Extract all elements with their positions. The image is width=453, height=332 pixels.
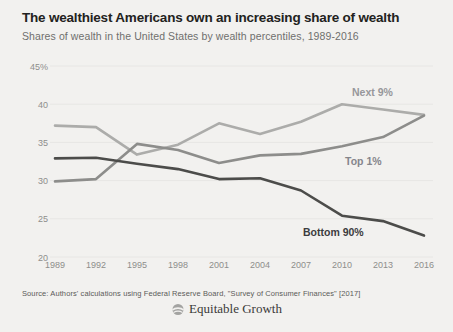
- x-tick-1992: 1992: [86, 260, 106, 270]
- y-tick-40: 40: [38, 100, 48, 110]
- chart-title: The wealthiest Americans own an increasi…: [22, 10, 437, 27]
- x-tick-1989: 1989: [45, 260, 65, 270]
- y-tick-45: 45%: [30, 62, 48, 72]
- x-tick-2001: 2001: [209, 260, 229, 270]
- series-label-next-9: Next 9%: [352, 86, 394, 98]
- line-series-top-1: [55, 116, 424, 182]
- y-tick-30: 30: [38, 176, 48, 186]
- y-tick-35: 35: [38, 138, 48, 148]
- chart-subtitle: Shares of wealth in the United States by…: [22, 30, 437, 42]
- logo-text: Equitable Growth: [189, 301, 282, 317]
- line-series-next-9: [55, 104, 424, 154]
- x-tick-2010: 2010: [332, 260, 352, 270]
- source-note: Source: Authors' calculations using Fede…: [22, 289, 361, 298]
- x-tick-2007: 2007: [291, 260, 311, 270]
- chart-header: The wealthiest Americans own an increasi…: [22, 10, 437, 42]
- wealth-share-line-chart: 45%4035302520198919921995199820012004200…: [0, 56, 453, 286]
- line-series-bottom-90: [55, 158, 424, 236]
- equitable-growth-logo-icon: [171, 302, 185, 316]
- x-tick-1998: 1998: [168, 260, 188, 270]
- y-tick-25: 25: [38, 214, 48, 224]
- x-tick-2004: 2004: [250, 260, 270, 270]
- x-tick-1995: 1995: [127, 260, 147, 270]
- series-label-bottom-90: Bottom 90%: [303, 226, 364, 238]
- footer-logo: Equitable Growth: [0, 301, 453, 317]
- series-label-top-1: Top 1%: [345, 155, 382, 167]
- x-tick-2013: 2013: [373, 260, 393, 270]
- x-tick-2016: 2016: [414, 260, 434, 270]
